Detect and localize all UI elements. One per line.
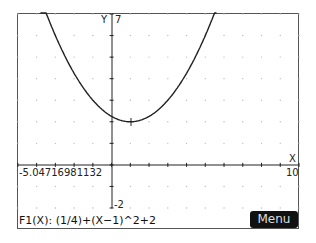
y-min-label: -2 — [114, 200, 124, 210]
grid-dots — [17, 13, 300, 208]
x-max-label: 10 — [286, 168, 299, 178]
function-label: F1(X): (1/4)+(X−1)^2+2 — [19, 214, 156, 227]
axis-ticks — [18, 14, 299, 208]
plot-canvas[interactable] — [0, 0, 316, 243]
y-axis-label: Y — [101, 15, 107, 25]
menu-button[interactable]: Menu — [250, 211, 298, 228]
x-min-label: -5.04716981132 — [19, 168, 102, 178]
function-curve — [40, 13, 216, 122]
x-axis-label: X — [289, 154, 296, 164]
y-max-label: 7 — [115, 15, 121, 25]
